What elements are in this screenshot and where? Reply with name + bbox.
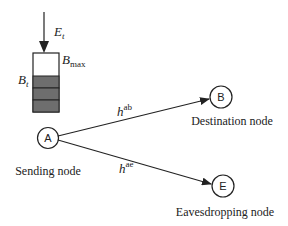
energy-arrow — [39, 12, 49, 53]
node-b-label: B — [217, 91, 224, 103]
link-ab-label: hab — [117, 102, 132, 119]
node-a: A — [38, 128, 59, 149]
battery-level-label: Bt — [18, 72, 29, 89]
link-ae-label: hae — [119, 159, 134, 176]
node-e-caption: Eavesdropping node — [176, 205, 274, 219]
node-a-caption: Sending node — [15, 164, 81, 178]
node-b-caption: Destination node — [191, 114, 273, 128]
diagram-canvas: Et Bmax Bt hab hae A Sending node B Dest… — [0, 0, 288, 226]
link-a-b — [58, 99, 209, 136]
link-a-e — [58, 140, 211, 184]
arrow-head-icon — [39, 41, 49, 53]
energy-label: Et — [53, 24, 65, 41]
node-e: E — [212, 175, 234, 197]
node-b: B — [210, 86, 232, 108]
node-e-label: E — [219, 180, 226, 192]
node-a-label: A — [44, 132, 52, 144]
battery-cell — [33, 88, 59, 100]
battery-max-label: Bmax — [62, 52, 86, 69]
battery — [33, 53, 59, 112]
battery-cell — [33, 100, 59, 112]
battery-cell — [33, 76, 59, 88]
